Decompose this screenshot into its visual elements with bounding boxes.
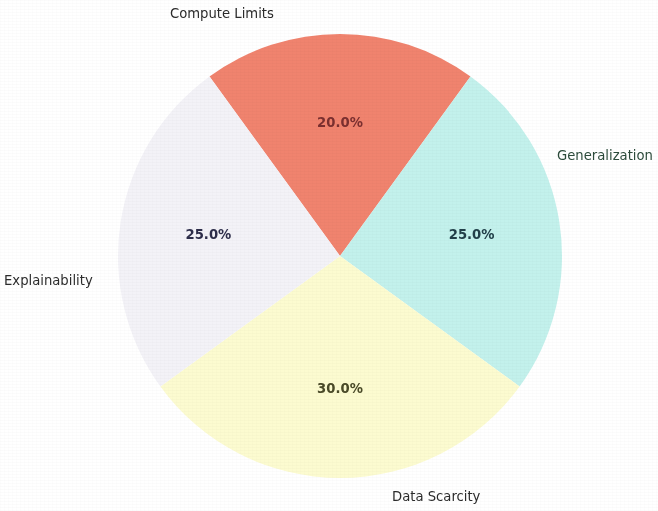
pie-chart-canvas: 20.0% 25.0% 30.0% 25.0% Compute Limits G… — [0, 0, 658, 511]
pie-label-generalization: Generalization — [557, 148, 653, 163]
pie-label-data-scarcity: Data Scarcity — [392, 489, 481, 504]
pie-percent-explainability: 25.0% — [449, 227, 495, 242]
pie-percent-data-scarcity: 30.0% — [317, 381, 363, 396]
pie-slices — [118, 34, 562, 478]
pie-label-explainability: Explainability — [4, 273, 93, 288]
pie-percent-generalization: 25.0% — [186, 227, 232, 242]
pie-label-compute-limits: Compute Limits — [170, 6, 274, 21]
pie-percent-compute-limits: 20.0% — [317, 115, 363, 130]
pie-chart-figure: 20.0% 25.0% 30.0% 25.0% Compute Limits G… — [0, 0, 658, 511]
